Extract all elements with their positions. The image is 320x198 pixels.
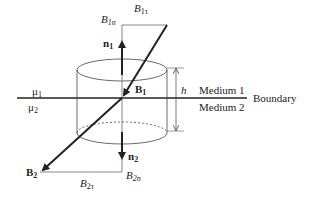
label-b1n: B1n <box>101 14 116 27</box>
label-b1: B1 <box>135 84 146 97</box>
h-dimension <box>167 68 184 131</box>
label-n1: n1 <box>103 38 113 51</box>
label-mu2: μ2 <box>28 102 38 115</box>
label-h: h <box>181 85 187 96</box>
b2-vector <box>43 98 122 170</box>
label-b1t: B1τ <box>134 3 148 16</box>
label-b2t: B2τ <box>80 178 94 191</box>
label-medium-1: Medium 1 <box>199 85 245 96</box>
label-b2n: B2n <box>126 170 141 183</box>
label-mu1: μ1 <box>32 86 42 99</box>
label-n2: n2 <box>128 151 138 164</box>
label-b2: B2 <box>26 167 37 180</box>
label-medium-2: Medium 2 <box>199 102 245 113</box>
label-boundary: Boundary <box>253 93 296 104</box>
